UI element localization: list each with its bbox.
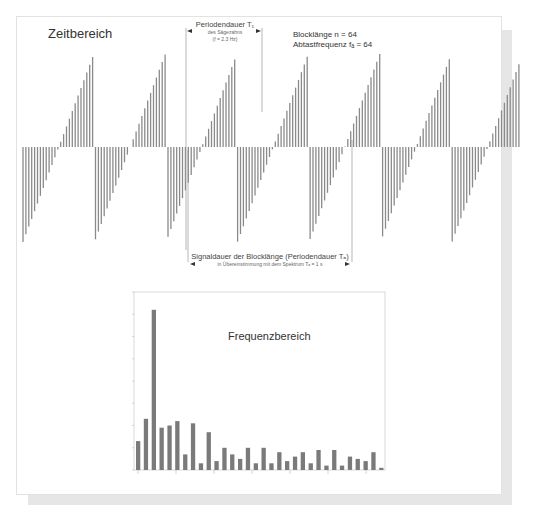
frequency-domain-title: Frequenzbereich xyxy=(228,330,311,342)
frequency-domain-plot xyxy=(0,0,551,525)
